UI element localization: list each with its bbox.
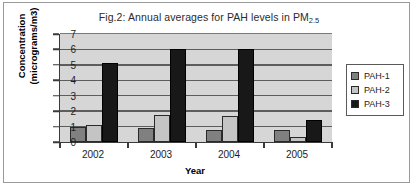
x-axis-tick-label: 2002 — [63, 149, 123, 160]
x-axis-tick-mark — [263, 142, 265, 148]
bar-pah-3-2005 — [306, 120, 322, 142]
x-axis-tick-label: 2004 — [199, 149, 259, 160]
chart-title-subscript: 2.5 — [309, 16, 319, 25]
x-axis-tick-mark — [59, 142, 61, 148]
y-axis-title-line1: Concentration — [16, 7, 28, 84]
y-axis-tick-mark — [53, 80, 59, 82]
bar-pah-3-2002 — [102, 63, 118, 142]
bar-pah-2-2004 — [222, 116, 238, 142]
x-axis-tick-label: 2003 — [131, 149, 191, 160]
legend-label: PAH-2 — [364, 85, 390, 95]
x-axis-tick-mark — [195, 142, 197, 148]
bar-pah-3-2004 — [238, 49, 254, 142]
y-axis-title: Concentration (micrograms/m3) — [13, 0, 43, 102]
legend: PAH-1PAH-2PAH-3 — [346, 64, 404, 116]
bar-pah-2-2005 — [290, 137, 306, 142]
legend-label: PAH-3 — [364, 99, 390, 109]
chart-title: Fig.2: Annual averages for PAH levels in… — [64, 11, 354, 25]
legend-swatch-icon — [351, 100, 359, 108]
figure-frame: Fig.2: Annual averages for PAH levels in… — [3, 2, 410, 183]
legend-item-pah-2: PAH-2 — [351, 83, 400, 97]
legend-item-pah-1: PAH-1 — [351, 69, 400, 83]
bars-layer — [60, 34, 332, 142]
y-axis-tick-mark — [53, 110, 59, 112]
bar-pah-1-2003 — [138, 128, 154, 142]
chart-title-text: Fig.2: Annual averages for PAH levels in… — [99, 11, 309, 23]
x-axis-tick-mark — [331, 142, 333, 148]
x-axis-title: Year — [59, 165, 331, 176]
y-axis-tick-mark — [53, 64, 59, 66]
bar-pah-2-2002 — [86, 125, 102, 142]
bar-pah-3-2003 — [170, 49, 186, 142]
bar-pah-2-2003 — [154, 115, 170, 142]
bar-pah-1-2004 — [206, 130, 222, 142]
y-axis-tick-mark — [53, 95, 59, 97]
y-axis-title-line2: (micrograms/m3) — [28, 7, 40, 84]
legend-swatch-icon — [351, 86, 359, 94]
y-axis-tick-mark — [53, 49, 59, 51]
y-axis-tick-mark — [53, 126, 59, 128]
legend-item-pah-3: PAH-3 — [351, 97, 400, 111]
legend-swatch-icon — [351, 72, 359, 80]
bar-pah-1-2005 — [274, 130, 290, 142]
y-axis-tick-mark — [53, 33, 59, 35]
x-axis-tick-mark — [127, 142, 129, 148]
plot-area — [59, 34, 332, 143]
legend-label: PAH-1 — [364, 71, 390, 81]
x-axis-tick-label: 2005 — [267, 149, 327, 160]
